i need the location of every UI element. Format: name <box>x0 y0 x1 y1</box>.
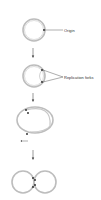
fork-dot-bottom <box>41 81 43 83</box>
stage-4-two-daughter-circles <box>12 171 56 193</box>
replication-forks-label: Replication forks <box>64 75 94 80</box>
stage-1-circular-dna: Origin <box>23 19 75 41</box>
fork-dot-top <box>41 69 43 71</box>
arrow-down-3 <box>32 150 34 160</box>
origin-label: Origin <box>64 28 75 33</box>
stage-3-theta-intermediate <box>17 107 53 142</box>
arrow-down-1 <box>32 48 34 58</box>
dna-replication-diagram: Origin Replication forks <box>0 0 101 200</box>
origin-dot <box>43 29 45 31</box>
stage-2-replication-forks: Replication forks <box>23 65 94 87</box>
arrow-down-2 <box>32 93 34 102</box>
